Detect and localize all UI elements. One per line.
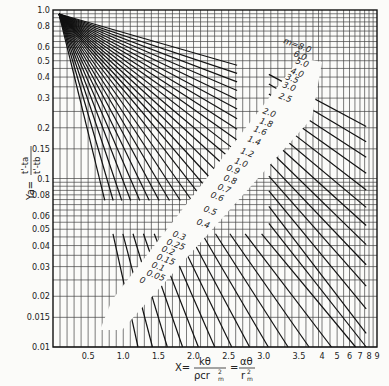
curve-segment [59, 14, 237, 177]
y-tick-label: 0.01 [32, 342, 50, 352]
x-tick-label: 7 [357, 351, 362, 361]
y-tick-label: 0.15 [32, 144, 50, 154]
curve-segment [59, 14, 237, 164]
x-axis-label-den2: r [241, 370, 246, 381]
x-tick-label: 3.5 [292, 351, 305, 361]
x-tick-label: 1.0 [117, 351, 130, 361]
x-tick-label: 8 [366, 351, 371, 361]
curve-segment [216, 234, 289, 347]
y-axis-label-lhs: Ya= [25, 181, 36, 201]
y-tick-label: 1.0 [37, 5, 50, 15]
curve-segment [189, 234, 249, 347]
x-tick-label: 1.5 [152, 351, 165, 361]
y-tick-label: 0.05 [32, 224, 50, 234]
x-axis-label-den1: ρcr [194, 370, 211, 381]
y-tick-label: 0.8 [37, 21, 50, 31]
curve-segment [59, 14, 231, 200]
x-axis-label-sub2: m [247, 375, 253, 382]
x-tick-label: 4 [319, 351, 324, 361]
chart: m=8.06.05.04.03.53.02.52.01.81.61.41.21.… [0, 0, 389, 386]
y-axis-label-num: t'-ta [20, 157, 30, 174]
y-tick-label: 0.015 [27, 312, 50, 322]
y-tick-label: 0.3 [37, 93, 50, 103]
x-axis-label-num2: αθ [240, 356, 253, 367]
y-tick-label: 0.6 [37, 42, 50, 52]
y-tick-label: 0.5 [37, 56, 50, 66]
curve-segment [230, 234, 309, 347]
x-tick-label: 3.0 [257, 351, 270, 361]
x-axis-label-eq: = [230, 362, 238, 373]
y-tick-label: 0.04 [32, 241, 50, 251]
x-axis-label-sq2: 2 [247, 368, 251, 375]
y-tick-label: 0.06 [32, 211, 50, 221]
x-axis-label-sub1: m [218, 375, 224, 382]
y-tick-label: 0.02 [32, 291, 50, 301]
x-tick-label: 5 [335, 351, 340, 361]
y-axis-label-den: t'-tb [32, 157, 42, 174]
y-tick-label: 0.1 [37, 174, 50, 184]
curve-segment [59, 14, 149, 200]
y-tick-label: 0.2 [37, 123, 50, 133]
x-tick-label: 6 [347, 351, 352, 361]
x-tick-label: 0.5 [82, 351, 95, 361]
x-axis-label-sq1: 2 [218, 368, 222, 375]
curve-segment [262, 234, 356, 347]
x-tick-labels: 0.51.01.52.02.53.03.5456789 [82, 351, 380, 361]
curve-segment [269, 138, 366, 226]
x-tick-label: 2.5 [222, 351, 235, 361]
y-tick-labels: 0.010.0150.020.030.040.050.060.080.10.15… [27, 5, 50, 352]
x-tick-label: 9 [374, 351, 379, 361]
x-axis-label-lhs: X= [175, 362, 190, 373]
x-axis-label-num1: kθ [199, 356, 211, 367]
y-tick-label: 0.03 [32, 262, 50, 272]
y-tick-label: 0.4 [37, 72, 50, 82]
